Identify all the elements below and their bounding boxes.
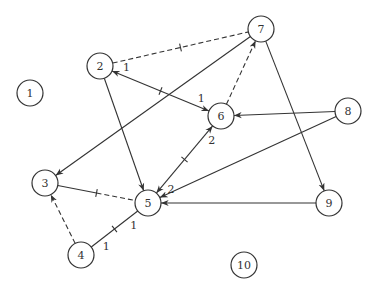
edge-2-7 xyxy=(113,32,249,63)
edge-8-6 xyxy=(234,112,335,116)
edge-3-5 xyxy=(58,185,135,200)
node-10: 10 xyxy=(231,252,257,278)
graph-diagram: 112211 12345678910 xyxy=(0,0,376,294)
edge-label: 1 xyxy=(103,240,110,253)
node-label: 5 xyxy=(145,197,152,210)
edge-label: 1 xyxy=(130,219,137,232)
node-4: 4 xyxy=(68,242,94,268)
node-label: 10 xyxy=(237,259,251,272)
edge-7-9 xyxy=(266,41,325,191)
node-label: 6 xyxy=(218,110,225,123)
node-2: 2 xyxy=(87,53,113,79)
graph-svg: 112211 12345678910 xyxy=(0,0,376,294)
edge-label: 1 xyxy=(123,61,130,74)
edge-4-3 xyxy=(51,195,75,244)
edge-label: 1 xyxy=(198,92,205,105)
node-9: 9 xyxy=(316,190,342,216)
node-label: 8 xyxy=(345,105,352,118)
node-label: 7 xyxy=(258,23,265,36)
edge-label: 2 xyxy=(208,134,215,147)
node-5: 5 xyxy=(135,190,161,216)
node-8: 8 xyxy=(335,98,361,124)
node-7: 7 xyxy=(248,16,274,42)
edge-4-5: 11 xyxy=(91,211,137,253)
node-3: 3 xyxy=(32,170,58,196)
node-label: 2 xyxy=(97,60,104,73)
edge-label: 2 xyxy=(167,183,174,196)
tick-mark xyxy=(96,189,98,197)
node-label: 4 xyxy=(78,249,85,262)
node-label: 9 xyxy=(326,197,333,210)
edge-6-2: 11 xyxy=(112,61,209,111)
tick-mark xyxy=(112,226,117,232)
node-1: 1 xyxy=(17,80,43,106)
node-6: 6 xyxy=(208,103,234,129)
nodes-layer: 12345678910 xyxy=(17,16,361,278)
edge-2-5 xyxy=(104,78,143,190)
node-label: 1 xyxy=(27,87,34,100)
node-label: 3 xyxy=(42,177,49,190)
